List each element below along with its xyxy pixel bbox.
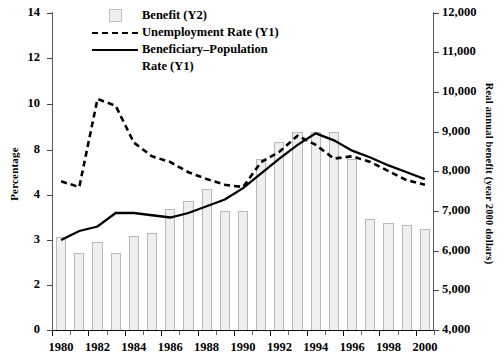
y-axis-right-tick-mark [434,290,439,291]
x-axis-tick-mark [198,331,199,336]
legend-label-unemployment-rate: Unemployment Rate (Y1) [142,25,279,40]
dashed-line-icon [88,25,142,40]
y-axis-left-tick-label: 12 [10,51,40,64]
y-axis-right-tick-mark [434,171,439,172]
y-axis-right-tick-label: 12,000 [442,6,476,19]
y-axis-left-tick-label: 4 [10,188,40,201]
line-beneficiary-population-rate [61,133,425,240]
y-axis-right-tick-label: 6,000 [442,244,470,257]
x-axis-tick-mark [252,331,253,335]
y-axis-right-tick-mark [434,52,439,53]
legend-label-benefit: Benefit (Y2) [142,8,207,23]
y-axis-right-tick-mark [434,132,439,133]
y-axis-right-tick-label: 7,000 [442,204,470,217]
x-axis-tick-mark [398,331,399,335]
legend-item-beneficiary-population-rate: Beneficiary–Population [88,42,279,57]
y-axis-left-tick-label: 2 [10,278,40,291]
y-axis-right-tick-mark [434,13,439,14]
x-axis-tick-mark [361,331,362,335]
x-axis-tick-mark [70,331,71,335]
y-axis-left-tick-label: 14 [10,6,40,19]
y-axis-left-tick-label: 8 [10,143,40,156]
y-axis-left-tick-label: 10 [10,97,40,110]
y-axis-right-tick-label: 11,000 [442,45,476,58]
x-axis-tick-mark [343,331,344,336]
x-axis-tick-mark [270,331,271,336]
square-swatch-icon [88,8,142,23]
legend-item-unemployment-rate: Unemployment Rate (Y1) [88,25,279,40]
x-axis-tick-mark [416,331,417,336]
x-axis-tick-mark [107,331,108,335]
chart-legend: Benefit (Y2) Unemployment Rate (Y1) Bene… [88,8,279,76]
x-axis-tick-mark [179,331,180,335]
chart-container: Percentage Real annual benefit (year 200… [0,0,500,363]
legend-item-benefit: Benefit (Y2) [88,8,279,23]
y-axis-right-tick-label: 9,000 [442,125,470,138]
x-axis-line [52,330,435,331]
y-axis-right-tick-label: 10,000 [442,85,476,98]
x-axis-tick-mark [143,331,144,335]
x-axis-tick-mark [288,331,289,335]
y-axis-right-tick-label: 5,000 [442,283,470,296]
legend-item-beneficiary-population-rate-cont: Rate (Y1) [88,59,279,74]
solid-line-icon [88,42,142,57]
y-axis-right-title: Real annual benefit (year 2000 dollars) [484,76,495,272]
x-axis-tick-mark [325,331,326,335]
x-axis-tick-mark [52,331,53,336]
y-axis-right-tick-mark [434,211,439,212]
legend-key-spacer [88,59,142,74]
y-axis-left-tick-label: 0 [10,323,40,336]
legend-label-beneficiary-population-rate: Beneficiary–Population [142,42,268,57]
x-axis-tick-label: 2000 [403,340,447,355]
y-axis-right-tick-mark [434,92,439,93]
x-axis-tick-mark [216,331,217,335]
y-axis-left-tick-label: 3 [10,233,40,246]
x-axis-tick-mark [434,331,435,335]
legend-label-beneficiary-population-rate-cont: Rate (Y1) [142,59,194,74]
x-axis-tick-mark [125,331,126,336]
x-axis-tick-mark [379,331,380,336]
x-axis-tick-mark [234,331,235,336]
x-axis-tick-mark [88,331,89,336]
line-unemployment-rate [61,99,425,187]
y-axis-right-tick-label: 8,000 [442,164,470,177]
x-axis-tick-mark [307,331,308,336]
y-axis-right-tick-mark [434,251,439,252]
y-axis-right-tick-label: 4,000 [442,323,470,336]
x-axis-tick-mark [161,331,162,336]
